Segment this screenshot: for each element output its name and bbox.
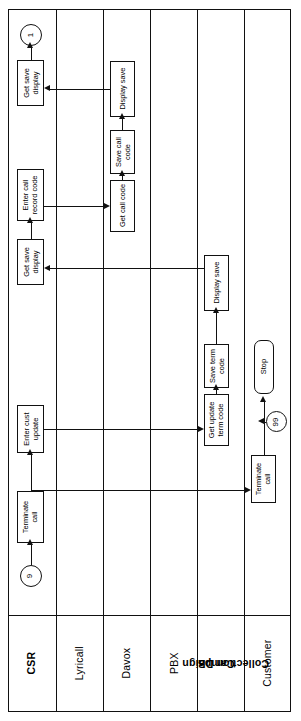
arrowhead-csr-getsave-mid bbox=[44, 265, 50, 271]
node-campaign-get-update-term-code-line2: term code bbox=[217, 404, 226, 437]
connector-circle-99-label: 99 bbox=[273, 417, 281, 426]
flow-line-entercallrecord-to-getcallcode bbox=[44, 206, 106, 207]
node-campaign-display-save-label: Display save bbox=[212, 262, 221, 304]
node-campaign-save-term-code-label: Save termcode bbox=[207, 349, 225, 383]
lane-divider-lyricall-davox bbox=[103, 9, 104, 712]
lane-divider-campaign-customer bbox=[244, 9, 245, 712]
node-davox-save-call-code-line2: code bbox=[123, 144, 132, 160]
node-csr-get-save-display-mid: Get savedisplay bbox=[17, 239, 44, 285]
arrowhead-davox-savecallcode bbox=[119, 170, 125, 176]
arrowhead-conn1 bbox=[27, 42, 33, 48]
arrowhead-csr-terminate bbox=[27, 539, 33, 545]
connector-circle-9: 9 bbox=[20, 565, 42, 587]
node-csr-get-save-display-mid-label: Get savedisplay bbox=[21, 247, 39, 277]
lane-title-lyricall: Lyricall bbox=[56, 615, 103, 712]
node-csr-get-save-display-mid-line1: Get save bbox=[21, 247, 30, 277]
node-csr-get-save-display-top-line1: Get save bbox=[21, 68, 30, 98]
flow-line-getsave-to-conn1 bbox=[31, 46, 32, 60]
node-csr-get-save-display-top: Get savedisplay bbox=[17, 60, 44, 106]
node-customer-terminate-call-line1: Terminate bbox=[254, 463, 263, 495]
node-campaign-get-update-term-code: Get updateterm code bbox=[204, 394, 229, 446]
node-csr-get-save-display-top-line2: display bbox=[31, 71, 40, 94]
lane-title-customer-label: Customer bbox=[261, 640, 273, 687]
node-customer-terminate-call-line2: call bbox=[264, 473, 273, 484]
node-davox-get-call-code: Get call code bbox=[110, 180, 135, 232]
arrowhead-stop bbox=[260, 396, 266, 402]
node-csr-enter-cust-update: Enter custupdate bbox=[17, 405, 44, 453]
node-campaign-save-term-code-line2: code bbox=[217, 358, 226, 374]
node-csr-enter-call-record-code-line1: Enter call bbox=[21, 180, 30, 211]
flow-line-davoxdisplay-to-csrgetsave bbox=[48, 89, 110, 90]
lane-title-davox-label: Davox bbox=[120, 648, 132, 679]
arrowhead-custupdate bbox=[27, 449, 33, 455]
lane-divider-csr-lyricall bbox=[56, 9, 57, 712]
node-csr-enter-cust-update-line2: update bbox=[31, 418, 40, 441]
swimlane-diagram-canvas: CSR Lyricall Davox PBX CampaignCollectio… bbox=[0, 0, 301, 721]
node-customer-stop: Stop bbox=[254, 340, 274, 394]
node-davox-display-save-label: Display save bbox=[118, 68, 127, 110]
lane-title-customer: Customer bbox=[244, 615, 291, 712]
arrowhead-customer-terminate bbox=[245, 487, 251, 493]
connector-circle-99: 99 bbox=[266, 411, 287, 432]
lane-divider-pbx-campaign bbox=[197, 9, 198, 712]
node-campaign-save-term-code: Save termcode bbox=[204, 344, 229, 388]
node-campaign-display-save: Display save bbox=[204, 255, 229, 311]
node-customer-terminate-call: Terminatecall bbox=[251, 455, 276, 503]
flow-line-terminate-to-custupdate bbox=[31, 453, 32, 491]
node-campaign-get-update-term-code-line1: Get update bbox=[207, 402, 216, 439]
arrowhead-campaign-getupdateterm bbox=[198, 426, 204, 432]
node-davox-save-call-code: Save callcode bbox=[110, 130, 135, 174]
node-csr-enter-call-record-code: Enter callrecord code bbox=[17, 169, 44, 221]
node-csr-terminate-call: Terminatecall bbox=[17, 491, 44, 543]
node-csr-terminate-call-line1: Terminate bbox=[21, 501, 30, 533]
lane-title-campaign-collection-db-label: CampaignCollection DB bbox=[202, 628, 239, 699]
node-customer-terminate-call-label: Terminatecall bbox=[254, 463, 272, 495]
lane-title-csr-label: CSR bbox=[26, 652, 38, 675]
lane-title-davox: Davox bbox=[103, 615, 150, 712]
node-csr-terminate-call-label: Terminatecall bbox=[21, 501, 39, 533]
node-csr-terminate-call-line2: call bbox=[31, 511, 40, 522]
arrowhead-entercall bbox=[27, 217, 33, 223]
arrowhead-davox-displaysave bbox=[119, 113, 125, 119]
arrowhead-csr-getsave-top bbox=[44, 85, 50, 91]
node-csr-enter-cust-update-label: Enter custupdate bbox=[21, 412, 39, 445]
node-davox-save-call-code-label: Save callcode bbox=[113, 137, 131, 167]
node-davox-save-call-code-line1: Save call bbox=[113, 137, 122, 167]
node-customer-stop-label: Stop bbox=[259, 359, 268, 374]
arrowhead-campaign-savetermcode bbox=[213, 384, 219, 390]
node-csr-get-save-display-top-label: Get savedisplay bbox=[21, 68, 39, 98]
node-csr-enter-cust-update-line1: Enter cust bbox=[21, 412, 30, 445]
lane-title-campaign-collection-db: CampaignCollection DB bbox=[197, 615, 244, 712]
flow-line-savetermcode-to-campaigndisplaysave bbox=[216, 311, 217, 344]
lane-title-csr: CSR bbox=[8, 615, 56, 712]
lane-title-lyricall-label: Lyricall bbox=[73, 647, 85, 681]
node-csr-enter-call-record-code-line2: record code bbox=[31, 175, 40, 214]
flow-line-conn9-to-terminate bbox=[31, 543, 32, 565]
node-davox-get-call-code-label: Get call code bbox=[118, 184, 127, 227]
flow-line-csrterminate-to-customerterminate bbox=[31, 490, 247, 491]
node-campaign-save-term-code-line1: Save term bbox=[207, 349, 216, 383]
flow-line-getsavemid-to-entercall bbox=[31, 221, 32, 239]
node-csr-get-save-display-mid-line2: display bbox=[31, 250, 40, 273]
arrowhead-campaign-displaysave bbox=[213, 307, 219, 313]
node-campaign-get-update-term-code-label: Get updateterm code bbox=[207, 402, 225, 439]
flow-line-entercustupdate-to-getupdateterm bbox=[44, 429, 200, 430]
flow-line-customerterminate-to-stop bbox=[264, 400, 265, 455]
flow-line-campaigndisplay-to-csrgetsavemid bbox=[48, 268, 204, 269]
node-davox-display-save: Display save bbox=[110, 61, 135, 117]
arrowhead-davox-getcallcode bbox=[104, 203, 110, 209]
lane-divider-davox-pbx bbox=[150, 9, 151, 712]
connector-circle-1-label: 1 bbox=[27, 33, 35, 37]
node-csr-enter-call-record-code-label: Enter callrecord code bbox=[21, 175, 39, 214]
connector-circle-9-label: 9 bbox=[27, 574, 35, 578]
